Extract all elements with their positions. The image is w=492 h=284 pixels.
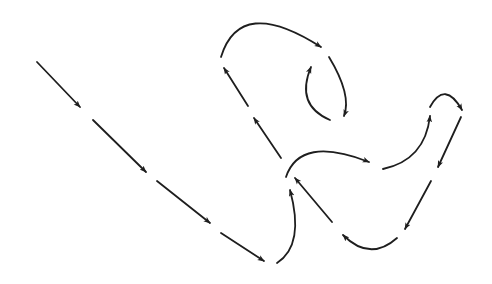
arrow-segment-14-straight-arrow-icon xyxy=(224,68,248,106)
arrow-segment-6-straight-arrow-icon xyxy=(295,178,332,222)
arrow-segment-9-curved-arrow-icon xyxy=(430,94,462,110)
arrow-segment-11-straight-arrow-icon xyxy=(405,181,431,229)
arrow-segment-5-curved-arrow-icon xyxy=(277,190,295,263)
arrow-segment-17-curved-arrow-icon xyxy=(306,67,330,120)
arrow-segments-group xyxy=(37,23,462,263)
arrow-segment-3-straight-arrow-icon xyxy=(157,181,210,223)
arrow-segment-10-straight-arrow-icon xyxy=(438,117,461,167)
arrow-segment-7-curved-arrow-icon xyxy=(286,151,369,177)
arrow-segment-8-curved-arrow-icon xyxy=(383,116,430,169)
arrow-segment-12-curved-arrow-icon xyxy=(343,235,397,249)
arrow-segment-13-straight-arrow-icon xyxy=(254,118,281,158)
arrow-segment-15-curved-arrow-icon xyxy=(221,23,321,57)
arrow-segment-1-straight-arrow-icon xyxy=(37,62,80,107)
arrow-path-diagram xyxy=(0,0,492,284)
arrow-segment-2-straight-arrow-icon xyxy=(93,120,146,172)
arrow-segment-16-curved-arrow-icon xyxy=(329,57,346,116)
arrow-segment-4-straight-arrow-icon xyxy=(221,233,264,261)
